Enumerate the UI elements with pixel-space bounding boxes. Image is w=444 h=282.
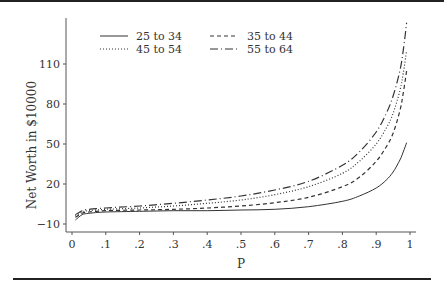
legend-label: 45 to 54 xyxy=(136,43,182,56)
y-ticks: −10205080110 xyxy=(37,58,66,231)
series-line-45-to-54 xyxy=(75,51,406,216)
legend-item-45-54: 45 to 54 xyxy=(100,43,182,56)
net-worth-chart: −10205080110 0.1.2.3.4.5.6.7.8.91 P Net … xyxy=(0,0,444,282)
series-lines xyxy=(75,23,406,220)
x-tick-label: .6 xyxy=(270,238,281,251)
top-rule xyxy=(0,0,444,2)
legend-item-25-34: 25 to 34 xyxy=(100,30,182,43)
x-tick-label: 0 xyxy=(69,238,76,251)
x-tick-label: .2 xyxy=(134,238,145,251)
x-axis-title: P xyxy=(237,257,245,271)
x-tick-label: .4 xyxy=(202,238,213,251)
x-tick-label: .9 xyxy=(371,238,382,251)
bottom-rule xyxy=(13,278,431,280)
legend-item-55-64: 55 to 64 xyxy=(210,43,293,56)
x-ticks: 0.1.2.3.4.5.6.7.8.91 xyxy=(69,232,414,251)
legend-label: 55 to 64 xyxy=(247,43,293,56)
legend: 25 to 34 35 to 44 45 to 54 55 to 64 xyxy=(100,30,293,56)
y-tick-label: 20 xyxy=(46,178,60,191)
y-tick-label: −10 xyxy=(37,218,60,231)
y-tick-label: 80 xyxy=(46,98,60,111)
legend-item-35-44: 35 to 44 xyxy=(210,30,293,43)
x-tick-label: 1 xyxy=(407,238,414,251)
x-tick-label: .7 xyxy=(303,238,314,251)
y-axis-title: Net Worth in $10000 xyxy=(25,81,39,209)
legend-label: 35 to 44 xyxy=(247,30,293,43)
x-tick-label: .8 xyxy=(337,238,348,251)
y-tick-label: 50 xyxy=(46,138,60,151)
x-tick-label: .5 xyxy=(236,238,247,251)
legend-label: 25 to 34 xyxy=(136,30,182,43)
series-line-55-to-64 xyxy=(75,23,406,215)
x-tick-label: .1 xyxy=(101,238,112,251)
y-tick-label: 110 xyxy=(39,58,60,71)
series-line-35-to-44 xyxy=(75,71,406,218)
x-tick-label: .3 xyxy=(168,238,179,251)
